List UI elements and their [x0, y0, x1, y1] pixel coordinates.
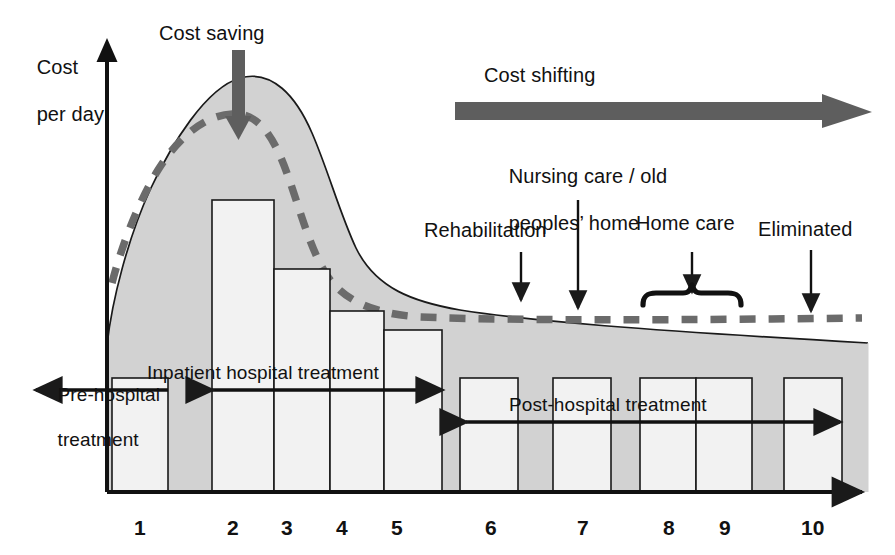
y-axis-label-line2: per day: [37, 103, 104, 125]
bar-5: [384, 330, 442, 492]
bar-4: [330, 311, 384, 492]
home-care-brace: [643, 285, 741, 305]
home-care-label: Home care: [636, 212, 735, 236]
x-tick-5: 5: [391, 516, 403, 541]
x-tick-6: 6: [485, 516, 497, 541]
bar-2: [212, 200, 274, 492]
rehabilitation-label: Rehabilitation: [424, 219, 547, 243]
cost-saving-label: Cost saving: [159, 22, 265, 46]
x-tick-1: 1: [134, 516, 146, 541]
x-tick-7: 7: [577, 516, 589, 541]
x-tick-2: 2: [227, 516, 239, 541]
x-tick-3: 3: [281, 516, 293, 541]
post-hospital-label: Post-hospital treatment: [509, 394, 707, 416]
eliminated-label: Eliminated: [758, 218, 852, 242]
pre-hospital-label-line1: Pre-hospital: [58, 384, 161, 405]
x-tick-4: 4: [336, 516, 348, 541]
figure-canvas: Cost per day Cost saving Cost shifting N…: [0, 0, 895, 555]
cost-shifting-label: Cost shifting: [484, 64, 595, 88]
x-tick-9: 9: [719, 516, 731, 541]
bar-10: [784, 378, 842, 492]
x-tick-8: 8: [663, 516, 675, 541]
inpatient-label: Inpatient hospital treatment: [147, 362, 379, 384]
y-axis-label: Cost per day: [14, 32, 104, 150]
x-tick-10: 10: [801, 516, 825, 541]
cost-shifting-arrow: [455, 94, 872, 128]
pre-hospital-label: Pre-hospital treatment: [36, 362, 160, 474]
y-axis-label-line1: Cost: [37, 56, 79, 78]
pre-hospital-label-line2: treatment: [58, 429, 139, 450]
nursing-care-label-line1: Nursing care / old: [509, 165, 668, 187]
